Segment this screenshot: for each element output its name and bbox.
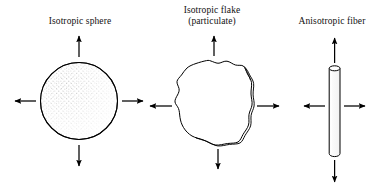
label-isotropic-flake-line2: (particulate) xyxy=(152,16,272,27)
panel-anisotropic-fiber xyxy=(304,38,365,182)
panel-isotropic-flake xyxy=(150,36,279,169)
fiber-shape xyxy=(329,66,340,157)
fiber-body xyxy=(329,69,340,157)
flake-shape xyxy=(175,60,254,146)
label-isotropic-flake-line1: Isotropic flake xyxy=(152,5,272,16)
label-anisotropic-fiber: Anisotropic fiber xyxy=(272,16,387,27)
diagram-canvas: Isotropic sphere Isotropic flake (partic… xyxy=(0,0,387,191)
label-isotropic-flake: Isotropic flake (particulate) xyxy=(152,5,272,27)
label-isotropic-sphere: Isotropic sphere xyxy=(10,16,150,27)
panel-isotropic-sphere xyxy=(15,36,143,166)
label-isotropic-sphere-line1: Isotropic sphere xyxy=(10,16,150,27)
flake-outline xyxy=(175,60,252,145)
fiber-top-cap xyxy=(329,66,340,71)
diagram-illustration xyxy=(0,0,387,191)
label-anisotropic-fiber-line1: Anisotropic fiber xyxy=(272,16,387,27)
sphere-shape xyxy=(40,62,118,140)
